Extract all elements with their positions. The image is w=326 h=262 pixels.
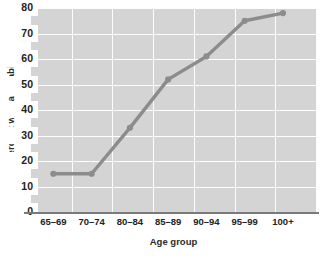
gridline-vertical: [316, 8, 317, 212]
y-tick-label: 30: [0, 127, 38, 144]
data-point-marker: [89, 171, 95, 177]
series-markers: [50, 10, 286, 177]
y-tick-label: 10: [0, 178, 38, 195]
data-point-marker: [127, 125, 133, 131]
y-tick-label: 50: [0, 76, 38, 93]
data-series-line: [31, 8, 316, 212]
data-point-marker: [165, 76, 171, 82]
disability-by-age-line-chart: Percent with a disability 01020304050607…: [0, 0, 326, 262]
y-tick-label: 60: [0, 50, 38, 67]
x-axis-title: Age group: [31, 236, 316, 247]
plot-area: [31, 8, 316, 212]
data-point-marker: [203, 53, 209, 59]
y-tick-label: 80: [0, 0, 38, 16]
data-point-marker: [242, 18, 248, 24]
data-point-marker: [280, 10, 286, 16]
y-tick-label: 70: [0, 25, 38, 42]
series-polyline: [53, 13, 283, 174]
x-tick-label: 100+: [255, 216, 311, 227]
x-axis-line: [24, 212, 319, 214]
y-tick-label: 40: [0, 101, 38, 118]
y-tick-label: 20: [0, 152, 38, 169]
data-point-marker: [50, 171, 56, 177]
